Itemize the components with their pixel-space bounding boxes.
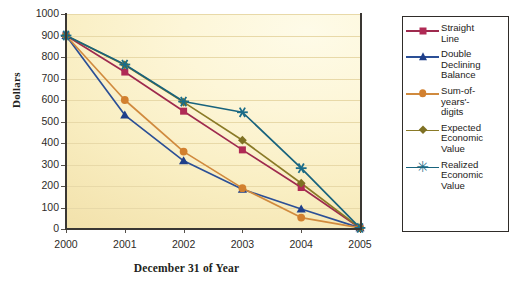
y-tick-label: 100	[19, 201, 59, 213]
y-tick-label: 500	[19, 115, 59, 127]
data-point-marker	[239, 184, 247, 192]
legend-item[interactable]: Expected Economic Value	[406, 123, 504, 155]
x-tick-label: 2003	[219, 238, 265, 250]
y-tick-label: 1000	[19, 7, 59, 19]
x-tick-label: 2001	[102, 238, 148, 250]
data-series-layer	[66, 14, 361, 229]
legend-symbol	[406, 87, 439, 100]
circle-marker-icon	[419, 90, 427, 98]
data-point-marker	[121, 69, 128, 76]
legend-symbol	[406, 24, 439, 37]
chart-legend: Straight LineDouble Declining BalanceSum…	[402, 16, 509, 232]
series-line	[66, 36, 360, 228]
legend-item[interactable]: Sum-of- years'- digits	[406, 86, 504, 118]
legend-item[interactable]: Double Declining Balance	[406, 49, 504, 81]
data-point-marker	[121, 96, 129, 104]
data-point-marker	[180, 108, 187, 115]
square-marker-icon	[419, 27, 426, 34]
data-point-marker	[297, 214, 305, 222]
data-point-marker	[180, 148, 188, 156]
x-tick-label: 2005	[337, 238, 383, 250]
x-tick-label: 2002	[161, 238, 207, 250]
series-line	[66, 36, 360, 228]
y-axis-line	[65, 13, 67, 229]
x-tick-label: 2000	[43, 238, 89, 250]
y-tick-label: 600	[19, 93, 59, 105]
y-tick-label: 200	[19, 179, 59, 191]
legend-symbol	[406, 50, 439, 63]
x-axis-line	[65, 228, 362, 230]
legend-label: Double Declining Balance	[439, 49, 480, 81]
legend-item[interactable]: ✳Realized Economic Value	[406, 160, 504, 192]
y-tick-label: 800	[19, 50, 59, 62]
legend-symbol: ✳	[406, 161, 439, 174]
data-point-marker	[239, 146, 246, 153]
chart-figure: Dollars 01002003004005006007008009001000…	[0, 0, 523, 287]
legend-label: Straight Line	[439, 23, 474, 44]
legend-symbol	[406, 124, 439, 137]
x-axis-title: December 31 of Year	[0, 262, 373, 274]
legend-label: Expected Economic Value	[439, 123, 483, 155]
plot-area: 01002003004005006007008009001000 2000200…	[66, 14, 361, 229]
right-axis-line	[360, 13, 362, 229]
legend-label: Realized Economic Value	[439, 160, 483, 192]
y-tick-label: 700	[19, 72, 59, 84]
legend-label: Sum-of- years'- digits	[439, 86, 475, 118]
series-line	[66, 36, 360, 228]
y-tick-label: 900	[19, 29, 59, 41]
star-marker-icon: ✳	[416, 163, 429, 172]
y-tick-label: 0	[19, 222, 59, 234]
triangle-marker-icon	[419, 52, 427, 60]
x-tick-label: 2004	[278, 238, 324, 250]
y-tick-label: 400	[19, 136, 59, 148]
diamond-marker-icon	[418, 126, 427, 135]
legend-item[interactable]: Straight Line	[406, 23, 504, 44]
y-tick-label: 300	[19, 158, 59, 170]
series-line	[66, 36, 360, 228]
series-line	[66, 36, 360, 228]
